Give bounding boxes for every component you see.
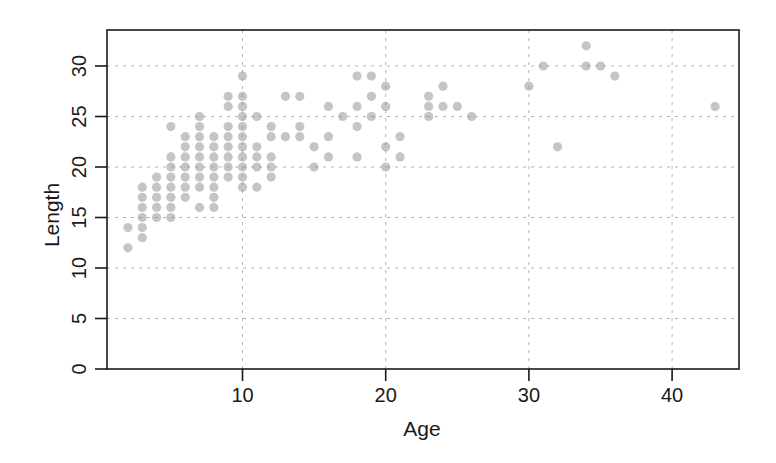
data-point (238, 142, 247, 151)
data-point (610, 72, 619, 81)
y-tick-label: 20 (68, 156, 90, 178)
data-point (224, 122, 233, 131)
data-point (224, 92, 233, 101)
data-point (438, 82, 447, 91)
data-point (166, 203, 175, 212)
data-point (281, 92, 290, 101)
data-point (209, 193, 218, 202)
data-point (181, 132, 190, 141)
data-point (209, 183, 218, 192)
data-point (166, 173, 175, 182)
data-point (138, 233, 147, 242)
scatter-chart: 10203040 051015202530 Age Length (0, 0, 776, 463)
grid-lines (107, 30, 739, 369)
data-point (324, 152, 333, 161)
data-point (381, 162, 390, 171)
data-point (367, 92, 376, 101)
data-point (195, 152, 204, 161)
data-point (424, 92, 433, 101)
data-point (267, 152, 276, 161)
data-point (238, 122, 247, 131)
data-point (138, 183, 147, 192)
data-point (553, 142, 562, 151)
data-points (123, 41, 719, 252)
data-point (209, 162, 218, 171)
data-point (209, 173, 218, 182)
data-point (352, 122, 361, 131)
data-point (138, 213, 147, 222)
data-point (352, 152, 361, 161)
data-point (395, 132, 404, 141)
data-point (166, 193, 175, 202)
data-point (195, 132, 204, 141)
data-point (324, 102, 333, 111)
data-point (267, 173, 276, 182)
y-axis-title: Length (40, 183, 63, 247)
data-point (467, 112, 476, 121)
data-point (238, 132, 247, 141)
data-point (195, 122, 204, 131)
data-point (367, 112, 376, 121)
data-point (238, 72, 247, 81)
data-point (224, 162, 233, 171)
data-point (195, 142, 204, 151)
y-tick-label: 25 (68, 105, 90, 127)
data-point (166, 183, 175, 192)
data-point (181, 193, 190, 202)
data-point (181, 142, 190, 151)
data-point (209, 203, 218, 212)
data-point (295, 122, 304, 131)
data-point (582, 41, 591, 50)
x-tick-label: 20 (375, 384, 397, 406)
data-point (209, 152, 218, 161)
x-tick-label: 30 (518, 384, 540, 406)
data-point (238, 183, 247, 192)
data-point (209, 142, 218, 151)
data-point (238, 162, 247, 171)
data-point (152, 203, 161, 212)
data-point (138, 193, 147, 202)
data-point (195, 173, 204, 182)
data-point (539, 61, 548, 70)
data-point (224, 173, 233, 182)
data-point (195, 203, 204, 212)
data-point (295, 92, 304, 101)
data-point (152, 173, 161, 182)
data-point (195, 162, 204, 171)
data-point (395, 152, 404, 161)
data-point (195, 183, 204, 192)
data-point (238, 173, 247, 182)
data-point (181, 152, 190, 161)
data-point (381, 142, 390, 151)
data-point (324, 132, 333, 141)
data-point (195, 112, 204, 121)
y-tick-label: 5 (68, 313, 90, 324)
data-point (166, 152, 175, 161)
data-point (582, 61, 591, 70)
y-tick-label: 10 (68, 257, 90, 279)
data-point (295, 132, 304, 141)
data-point (352, 72, 361, 81)
data-point (152, 213, 161, 222)
y-tick-label: 0 (68, 363, 90, 374)
data-point (252, 112, 261, 121)
data-point (123, 223, 132, 232)
data-point (438, 102, 447, 111)
data-point (281, 132, 290, 141)
data-point (596, 61, 605, 70)
data-point (224, 132, 233, 141)
data-point (453, 102, 462, 111)
data-point (252, 183, 261, 192)
data-point (238, 102, 247, 111)
data-point (166, 122, 175, 131)
data-point (252, 152, 261, 161)
data-point (252, 162, 261, 171)
data-point (181, 162, 190, 171)
data-point (310, 162, 319, 171)
data-point (267, 132, 276, 141)
data-point (166, 162, 175, 171)
x-tick-label: 10 (231, 384, 253, 406)
data-point (181, 173, 190, 182)
data-point (152, 193, 161, 202)
data-point (524, 82, 533, 91)
